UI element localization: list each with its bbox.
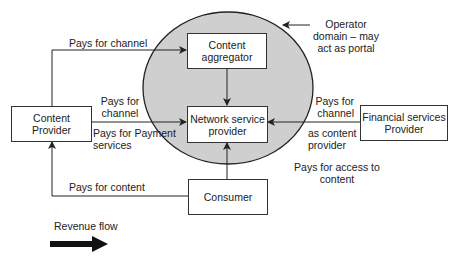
edge-label-consumer-to-cp: Pays for content [69,181,145,193]
edge-label-consumer-to-nsp: Pays for access to content [285,161,389,185]
label-line: Pays for Payment [93,127,176,139]
legend-label: Revenue flow [54,220,118,232]
edge-label-cp-to-nsp-bottom: Pays for Payment services [93,127,176,151]
label-line: Pays for [306,95,354,107]
label-line: as content [308,127,356,139]
node-financial-services-provider: Financial services Provider [360,105,448,141]
edge-label-fsp-to-nsp-top: Pays for channel [306,95,354,119]
node-label: Content [33,112,70,124]
label-line: domain – may [310,30,382,42]
node-label: Content [209,39,246,51]
label-line: content [285,173,389,185]
node-label: provider [209,125,247,137]
node-content-provider: Content Provider [11,106,92,142]
node-label: Consumer [204,191,252,203]
node-consumer: Consumer [188,179,268,215]
node-label: Financial services [362,111,445,123]
node-network-service-provider: Network service provider [187,106,268,143]
node-label: Provider [32,124,71,136]
operator-domain-label: Operator domain – may act as portal [310,18,382,54]
label-line: Pays for access to [285,161,389,173]
node-label: Provider [384,123,423,135]
node-label: Network service [190,113,265,125]
edge-label-cp-to-nsp-top: Pays for channel [94,95,146,119]
revenue-flow-arrow-icon [50,236,108,252]
label-line: services [93,139,176,151]
edge-label-cp-to-aggregator: Pays for channel [69,37,147,49]
label-line: Operator [310,18,382,30]
label-line: Pays for [94,95,146,107]
label-line: act as portal [310,42,382,54]
label-line: channel [94,107,146,119]
node-label: aggregator [202,51,253,63]
label-line: provider [308,139,356,151]
label-line: channel [306,107,354,119]
node-content-aggregator: Content aggregator [187,33,267,69]
edge-label-fsp-to-nsp-bottom: as content provider [308,127,356,151]
